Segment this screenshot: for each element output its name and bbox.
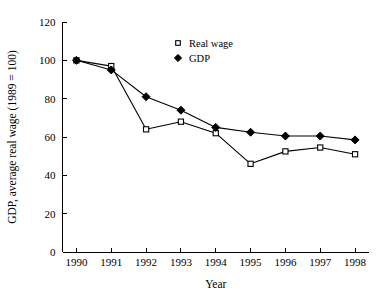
x-tick-label: 1993 (170, 256, 193, 268)
series-real-wage-open-square-marker (143, 127, 148, 132)
y-tick-label: 120 (39, 16, 56, 28)
y-tick-label: 60 (45, 131, 57, 143)
y-tick-label: 80 (45, 93, 57, 105)
series-gdp-filled-diamond-marker (247, 128, 255, 136)
y-tick-label: 0 (50, 246, 56, 258)
legend-marker-real-wage (176, 41, 181, 46)
series-gdp-filled-diamond-marker (281, 132, 289, 140)
x-tick-label: 1992 (135, 256, 157, 268)
series-real-wage-open-square-marker (283, 149, 288, 154)
series-gdp-filled-diamond-marker (177, 106, 185, 114)
x-tick-label: 1998 (344, 256, 367, 268)
x-tick-label: 1994 (205, 256, 228, 268)
series-real-wage-open-square-marker (248, 161, 253, 166)
series-gdp-filled-diamond-marker (351, 136, 359, 144)
legend-label-real-wage: Real wage (189, 38, 233, 49)
series-real-wage-open-square-marker (352, 152, 357, 157)
x-axis-title: Year (205, 278, 226, 290)
series-real-wage-open-square-marker (178, 119, 183, 124)
x-tick-label: 1995 (240, 256, 263, 268)
legend-label-gdp: GDP (189, 53, 210, 64)
series-real-wage-open-square-marker (318, 145, 323, 150)
y-tick-label: 100 (39, 54, 56, 66)
x-tick-label: 1991 (100, 256, 122, 268)
x-tick-label: 1990 (65, 256, 88, 268)
x-tick-label: 1996 (274, 256, 297, 268)
y-tick-label: 20 (45, 208, 57, 220)
y-axis-title: GDP, average real wage (1989 = 100) (6, 50, 19, 224)
y-tick-label: 40 (45, 169, 57, 181)
x-tick-label: 1997 (309, 256, 332, 268)
legend-marker-gdp (174, 54, 181, 61)
series-gdp-filled-diamond-marker (316, 132, 324, 140)
line-chart: 0204060801001201990199119921993199419951… (0, 0, 385, 296)
chart-container: 0204060801001201990199119921993199419951… (0, 0, 385, 296)
